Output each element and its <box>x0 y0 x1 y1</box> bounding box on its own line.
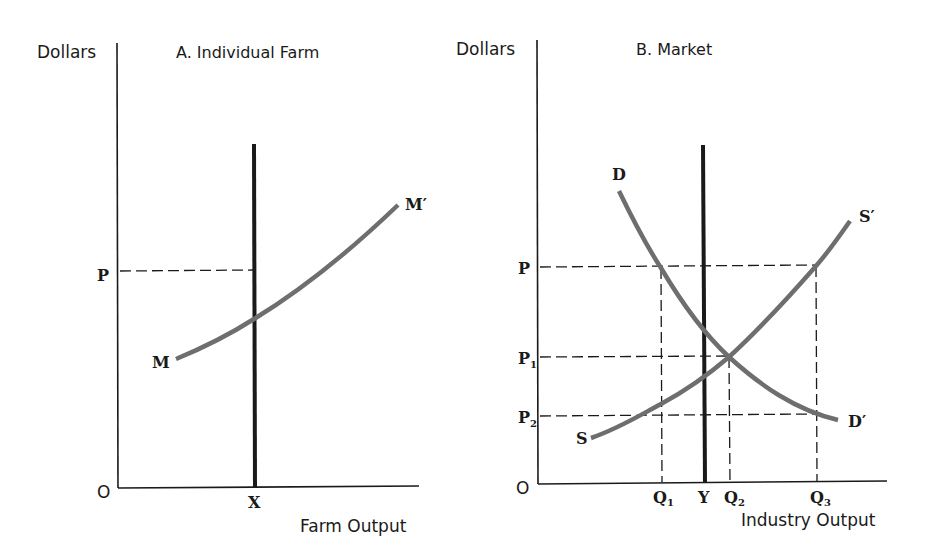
quantity-guide-q1 <box>661 268 662 482</box>
price-guide-p1 <box>540 356 729 357</box>
curve-label-d: D <box>612 165 626 184</box>
curve-label-d-prime: D′ <box>848 412 866 431</box>
y-axis-label-a: Dollars <box>37 42 96 62</box>
curve-label-s: S <box>576 429 588 448</box>
quantity-guide-q2 <box>729 357 730 482</box>
y-axis-label-b: Dollars <box>456 39 515 59</box>
origin-label-b: O <box>516 478 529 498</box>
curve-m <box>176 205 398 359</box>
curve-label-m: M <box>152 353 170 372</box>
y-axis-b <box>537 40 538 484</box>
quantity-label-q1: Q1 <box>653 488 674 508</box>
x-axis-b <box>538 481 887 484</box>
fixed-output-line-x <box>254 144 255 487</box>
price-guide-p2 <box>540 414 816 416</box>
fixed-output-line-y <box>703 145 705 483</box>
price-label-p2: P2 <box>518 408 537 429</box>
price-guide-p-a <box>120 270 253 271</box>
curve-supply <box>591 221 850 438</box>
price-guide-p-b <box>540 265 816 267</box>
quantity-guide-q3 <box>816 266 817 481</box>
price-label-p-b: P <box>518 259 530 278</box>
y-axis-a <box>117 43 118 488</box>
x-axis-label-b: Industry Output <box>741 510 876 530</box>
quantity-label-x: X <box>248 493 261 512</box>
quantity-label-q3: Q3 <box>810 488 831 508</box>
curve-label-m-prime: M′ <box>405 195 427 214</box>
curve-demand <box>619 191 838 420</box>
panel-title-a: A. Individual Farm <box>176 43 319 62</box>
quantity-label-q2: Q2 <box>724 488 745 508</box>
diagram-canvas: Dollars A. Individual Farm P M M′ O X Fa… <box>0 0 932 558</box>
panel-market: Dollars B. Market P P1 P2 D D′ S S′ O Q1… <box>456 39 887 530</box>
price-label-p1: P1 <box>518 349 537 370</box>
price-label-p-a: P <box>97 266 109 285</box>
curve-label-s-prime: S′ <box>859 207 875 226</box>
panel-individual-farm: Dollars A. Individual Farm P M M′ O X Fa… <box>37 42 427 536</box>
x-axis-label-a: Farm Output <box>300 516 407 536</box>
origin-label-a: O <box>97 482 110 502</box>
x-axis-a <box>118 486 419 488</box>
quantity-label-y: Y <box>697 488 710 507</box>
panel-title-b: B. Market <box>636 40 712 59</box>
